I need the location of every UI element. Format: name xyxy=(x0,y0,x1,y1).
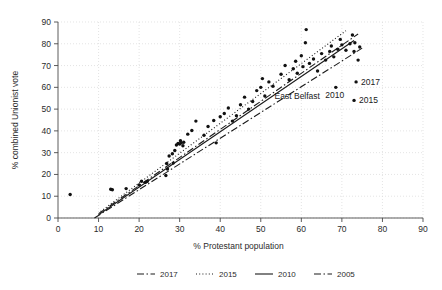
data-point xyxy=(171,152,174,155)
data-point xyxy=(296,71,299,74)
x-tick-label: 80 xyxy=(378,224,388,234)
data-point xyxy=(344,49,347,52)
point-label-2010: 2010 xyxy=(325,90,344,100)
data-point xyxy=(173,149,176,152)
data-point xyxy=(164,174,167,177)
y-tick-label: 80 xyxy=(42,39,52,49)
data-point xyxy=(308,62,311,65)
x-tick-label: 90 xyxy=(418,224,428,234)
data-point xyxy=(279,73,282,76)
data-point xyxy=(171,161,174,164)
data-points xyxy=(68,28,361,196)
data-point xyxy=(206,125,209,128)
data-point xyxy=(339,38,342,41)
data-point xyxy=(235,114,238,117)
data-point xyxy=(358,45,361,48)
point-label-2017: 2017 xyxy=(361,77,380,87)
data-point xyxy=(300,54,303,57)
data-point xyxy=(259,86,262,89)
axes xyxy=(54,22,423,222)
y-tick-label: 20 xyxy=(42,169,52,179)
y-tick-label: 50 xyxy=(42,104,52,114)
data-point-outlier xyxy=(334,86,337,89)
y-tick-label: 40 xyxy=(42,126,52,136)
data-point xyxy=(124,187,127,190)
data-point xyxy=(140,179,143,182)
y-tick-label: 10 xyxy=(42,191,52,201)
legend-label-2017: 2017 xyxy=(160,270,178,279)
data-point xyxy=(352,50,355,53)
data-point xyxy=(324,58,327,61)
data-point xyxy=(179,139,182,142)
data-point xyxy=(181,144,184,147)
data-point xyxy=(287,78,290,81)
y-tick-label: 70 xyxy=(42,61,52,71)
data-point xyxy=(239,103,242,106)
plot-area: 01020304050607080900102030405060708090 2… xyxy=(0,0,442,290)
x-tick-label: 30 xyxy=(175,224,185,234)
x-tick-label: 70 xyxy=(337,224,347,234)
data-point xyxy=(340,43,343,46)
data-point xyxy=(223,112,226,115)
data-point xyxy=(301,65,304,68)
data-point xyxy=(255,89,258,92)
data-point xyxy=(356,58,359,61)
x-tick-label: 50 xyxy=(256,224,266,234)
data-point xyxy=(261,77,264,80)
trend-line-2010 xyxy=(99,41,354,215)
data-point xyxy=(202,134,205,137)
data-point xyxy=(243,95,246,98)
data-point xyxy=(231,119,234,122)
scatter-chart: 01020304050607080900102030405060708090 2… xyxy=(0,0,442,290)
data-point xyxy=(165,162,168,165)
legend: 2017201520102005 xyxy=(137,270,355,279)
y-tick-label: 0 xyxy=(46,213,51,223)
data-point xyxy=(292,67,295,70)
data-point xyxy=(227,106,230,109)
data-point xyxy=(137,183,140,186)
data-point xyxy=(312,57,315,60)
data-point xyxy=(336,48,339,51)
trend-line-2017 xyxy=(99,34,359,214)
data-point xyxy=(251,100,254,103)
trend-lines xyxy=(95,31,363,218)
data-point xyxy=(186,132,189,135)
x-tick-label: 0 xyxy=(56,224,61,234)
point-label-2015: 2015 xyxy=(359,95,378,105)
data-point xyxy=(190,129,193,132)
data-point xyxy=(351,33,354,36)
data-point xyxy=(263,94,266,97)
data-point xyxy=(353,41,356,44)
data-point xyxy=(294,60,297,63)
data-point xyxy=(219,115,222,118)
data-point xyxy=(166,167,169,170)
legend-label-2010: 2010 xyxy=(278,270,296,279)
data-point xyxy=(68,193,71,196)
data-point xyxy=(182,141,185,144)
axis-titles: % Protestant population% combined Unioni… xyxy=(10,71,284,251)
annotation-east-belfast: East Belfast xyxy=(275,91,321,101)
data-point xyxy=(271,85,274,88)
data-point xyxy=(214,141,217,144)
data-point xyxy=(146,180,149,183)
trend-line-2005 xyxy=(95,48,363,218)
data-point xyxy=(348,42,351,45)
data-point xyxy=(267,80,270,83)
data-point xyxy=(111,188,114,191)
y-axis-title: % combined Unionist vote xyxy=(10,71,20,170)
data-point-outlier xyxy=(354,80,357,83)
x-tick-label: 40 xyxy=(215,224,225,234)
data-point xyxy=(316,69,319,72)
trend-line-2015 xyxy=(101,31,346,212)
data-point xyxy=(304,41,307,44)
x-tick-label: 10 xyxy=(94,224,104,234)
data-point xyxy=(320,52,323,55)
data-point xyxy=(167,154,170,157)
x-tick-label: 20 xyxy=(134,224,144,234)
y-tick-label: 30 xyxy=(42,148,52,158)
x-axis-title: % Protestant population xyxy=(193,241,284,251)
data-point xyxy=(330,44,333,47)
data-point xyxy=(247,107,250,110)
legend-label-2015: 2015 xyxy=(219,270,237,279)
x-tick-label: 60 xyxy=(297,224,307,234)
